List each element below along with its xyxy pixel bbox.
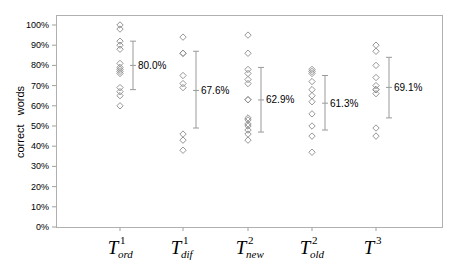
data-point-diamond-icon — [373, 86, 379, 92]
x-tick-label-T1_ord: T1ord — [108, 234, 134, 260]
y-tick-label: 50% — [31, 121, 49, 131]
category-group-T2_old: 61.3% — [309, 66, 359, 155]
data-point-diamond-icon — [245, 32, 251, 38]
category-base: T — [364, 237, 376, 258]
mean-label: 69.1% — [394, 82, 422, 93]
data-point-diamond-icon — [180, 50, 186, 56]
category-subscript: dif — [181, 248, 195, 260]
category-superscript: 2 — [248, 234, 254, 246]
category-superscript: 2 — [312, 234, 318, 246]
data-point-diamond-icon — [117, 68, 123, 74]
data-point-diamond-icon — [180, 84, 186, 90]
mean-label: 62.9% — [266, 94, 294, 105]
data-point-diamond-icon — [309, 78, 315, 84]
data-point-diamond-icon — [117, 93, 123, 99]
y-tick-label: 100% — [26, 20, 49, 30]
data-point-diamond-icon — [373, 90, 379, 96]
category-group-T2_new: 62.9% — [245, 32, 295, 143]
data-point-diamond-icon — [245, 50, 251, 56]
mean-label: 61.3% — [330, 98, 358, 109]
data-point-diamond-icon — [117, 38, 123, 44]
y-tick-label: 20% — [31, 182, 49, 192]
x-axis: T1ordT1difT2newT2oldT3 — [108, 228, 382, 261]
data-point-diamond-icon — [373, 133, 379, 139]
category-superscript: 1 — [120, 234, 126, 246]
data-point-diamond-icon — [373, 125, 379, 131]
data-point-diamond-icon — [180, 80, 186, 86]
data-point-diamond-icon — [117, 26, 123, 32]
data-point-diamond-icon — [245, 66, 251, 72]
data-point-diamond-icon — [117, 103, 123, 109]
data-point-diamond-icon — [117, 46, 123, 52]
data-point-diamond-icon — [373, 74, 379, 80]
data-point-diamond-icon — [373, 86, 379, 92]
x-tick-label-T3: T3 — [364, 234, 382, 258]
data-point-diamond-icon — [117, 42, 123, 48]
data-point-diamond-icon — [309, 70, 315, 76]
data-point-diamond-icon — [245, 97, 251, 103]
data-point-diamond-icon — [117, 84, 123, 90]
data-point-diamond-icon — [117, 88, 123, 94]
x-tick-label-T2_new: T2new — [236, 234, 265, 260]
y-tick-label: 70% — [31, 81, 49, 91]
data-point-diamond-icon — [245, 97, 251, 103]
x-tick-label-T2_old: T2old — [300, 234, 325, 260]
category-subscript: new — [246, 248, 264, 260]
data-point-diamond-icon — [309, 149, 315, 155]
data-point-diamond-icon — [309, 111, 315, 117]
category-group-T1_ord: 80.0% — [117, 22, 167, 109]
category-group-T3: 69.1% — [373, 42, 423, 139]
data-point-diamond-icon — [373, 82, 379, 88]
data-point-diamond-icon — [309, 68, 315, 74]
y-tick-label: 90% — [31, 40, 49, 50]
data-point-diamond-icon — [117, 22, 123, 28]
data-point-diamond-icon — [180, 147, 186, 153]
data-point-diamond-icon — [245, 80, 251, 86]
x-tick-label-T1_dif: T1dif — [171, 234, 195, 260]
y-tick-label: 10% — [31, 202, 49, 212]
category-group-T1_dif: 67.6% — [180, 34, 230, 154]
data-point-diamond-icon — [309, 133, 315, 139]
mean-label: 67.6% — [201, 85, 229, 96]
data-point-diamond-icon — [309, 123, 315, 129]
y-axis-label: correct words — [14, 85, 26, 158]
data-point-diamond-icon — [309, 66, 315, 72]
y-tick-label: 80% — [31, 60, 49, 70]
category-subscript: ord — [118, 248, 133, 260]
y-axis: 0%10%20%30%40%50%60%70%80%90%100% — [26, 20, 57, 232]
category-subscript: old — [310, 248, 325, 260]
category-superscript: 3 — [376, 234, 382, 246]
mean-label: 80.0% — [138, 60, 166, 71]
y-tick-label: 0% — [36, 222, 49, 232]
y-tick-label: 30% — [31, 161, 49, 171]
data-point-diamond-icon — [373, 62, 379, 68]
data-series: 80.0%67.6%62.9%61.3%69.1% — [117, 22, 423, 156]
y-tick-label: 60% — [31, 101, 49, 111]
y-tick-label: 40% — [31, 141, 49, 151]
data-point-diamond-icon — [180, 50, 186, 56]
data-point-diamond-icon — [180, 72, 186, 78]
data-point-diamond-icon — [180, 34, 186, 40]
chart: 0%10%20%30%40%50%60%70%80%90%100% correc… — [0, 0, 453, 269]
category-superscript: 1 — [183, 234, 189, 246]
